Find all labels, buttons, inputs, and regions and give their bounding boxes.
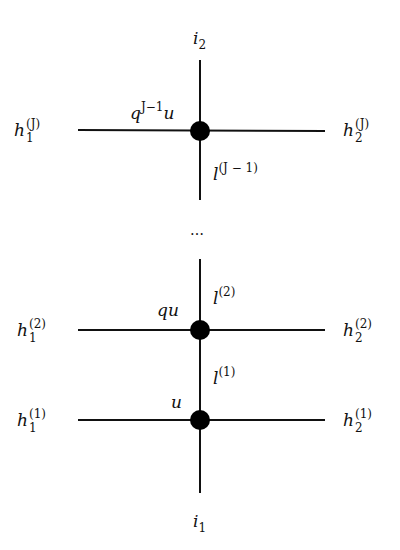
vertex-node-1 xyxy=(190,410,210,430)
label-h1-1: h(1)1 xyxy=(17,408,46,434)
spectral-param-J: qJ−1u xyxy=(130,105,174,122)
label-h1-2: h(2)1 xyxy=(17,318,46,344)
vertex-node-J xyxy=(190,121,210,141)
diagram-canvas xyxy=(0,0,400,550)
spectral-param-2: qu xyxy=(157,302,179,319)
label-h2-2: h(2)2 xyxy=(343,318,372,344)
ellipsis: … xyxy=(190,222,206,238)
vertex-node-2 xyxy=(190,320,210,340)
label-h2-1: h(1)2 xyxy=(343,408,372,434)
spectral-param-1: u xyxy=(171,394,182,411)
label-h2-J: h(J)2 xyxy=(343,118,369,144)
label-i2: i2 xyxy=(193,30,206,47)
label-l-J-minus-1: l(J − 1) xyxy=(213,166,258,183)
label-l-2: l(2) xyxy=(213,290,235,307)
label-l-1: l(1) xyxy=(213,370,235,387)
label-h1-J: h(J)1 xyxy=(14,118,40,144)
label-i1: i1 xyxy=(193,513,206,530)
